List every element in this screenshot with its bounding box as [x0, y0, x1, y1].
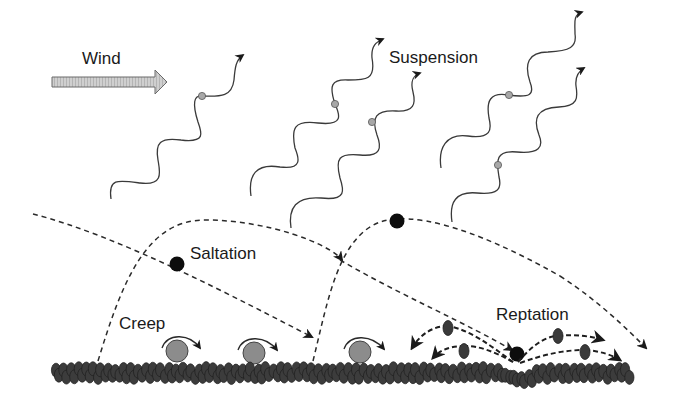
saltation-trajectory-3: [340, 260, 512, 350]
reptating-grain: [443, 321, 453, 336]
suspended-particle: [198, 92, 205, 99]
suspension-paths: [110, 12, 584, 228]
saltating-particles: [170, 214, 525, 362]
sand-bed: [51, 362, 634, 389]
reptation-label: Reptation: [496, 306, 569, 323]
saltating-particle: [390, 214, 405, 229]
suspended-particles: [198, 91, 512, 168]
suspension-path-3: [290, 73, 420, 228]
saltation-trajectory-incoming: [33, 214, 312, 337]
suspension-path-4: [440, 12, 582, 168]
reptating-grain: [553, 329, 563, 344]
saltation-trajectory-2b: [560, 276, 646, 348]
suspended-particle: [505, 91, 512, 98]
suspended-particle: [368, 118, 375, 125]
suspension-label: Suspension: [389, 49, 478, 66]
suspended-particle: [331, 100, 338, 107]
saltation-trajectory-2: [313, 219, 560, 361]
reptating-grain: [459, 344, 469, 359]
saltation-label: Saltation: [190, 245, 256, 262]
creep-particle: [162, 337, 200, 362]
saltating-particle: [170, 257, 185, 272]
creep-particles: [162, 337, 384, 364]
creep-label: Creep: [119, 315, 165, 332]
suspended-particle: [494, 161, 501, 168]
reptating-grain: [580, 345, 590, 360]
creep-particle: [238, 339, 277, 364]
creep-particle: [344, 338, 384, 363]
wind-arrow-icon: [52, 70, 167, 94]
bed-grain: [625, 370, 634, 384]
suspension-path-5: [451, 68, 584, 222]
saltating-particle-impact: [510, 347, 525, 362]
suspension-path-2: [250, 39, 383, 196]
wind-label: Wind: [82, 50, 121, 67]
